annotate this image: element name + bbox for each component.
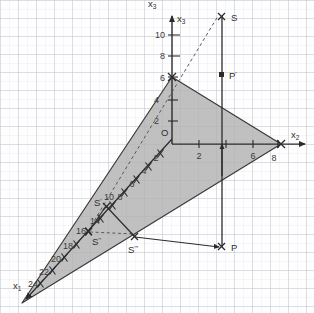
marker-P-prime (219, 72, 224, 77)
svg-text:22: 22 (39, 267, 49, 277)
svg-text:20: 20 (51, 254, 61, 264)
svg-text:6: 6 (250, 151, 255, 161)
svg-text:18: 18 (63, 241, 73, 251)
diagram-canvas: x1 x2 x3 x3 O 2 4 6 8 10 2 6 8 2 4 6 8 1… (0, 0, 314, 313)
svg-text:6: 6 (160, 73, 165, 83)
svg-text:2: 2 (154, 116, 159, 126)
svg-text:10: 10 (155, 30, 165, 40)
svg-text:8: 8 (160, 51, 165, 61)
axonometric-diagram: x1 x2 x3 x3 O 2 4 6 8 10 2 6 8 2 4 6 8 1… (0, 0, 314, 313)
svg-text:16: 16 (76, 226, 86, 236)
label-S: S (231, 12, 237, 23)
svg-text:14: 14 (90, 216, 100, 226)
svg-text:4: 4 (154, 95, 159, 105)
svg-text:6: 6 (129, 179, 134, 189)
svg-text:2: 2 (196, 151, 201, 161)
label-P: P (231, 242, 237, 253)
svg-text:10: 10 (104, 192, 114, 202)
svg-text:8: 8 (117, 192, 122, 202)
svg-text:24: 24 (28, 279, 38, 289)
svg-text:8: 8 (271, 153, 276, 163)
svg-text:4: 4 (141, 166, 146, 176)
svg-text:2: 2 (153, 153, 158, 163)
origin-label: O (161, 127, 168, 138)
